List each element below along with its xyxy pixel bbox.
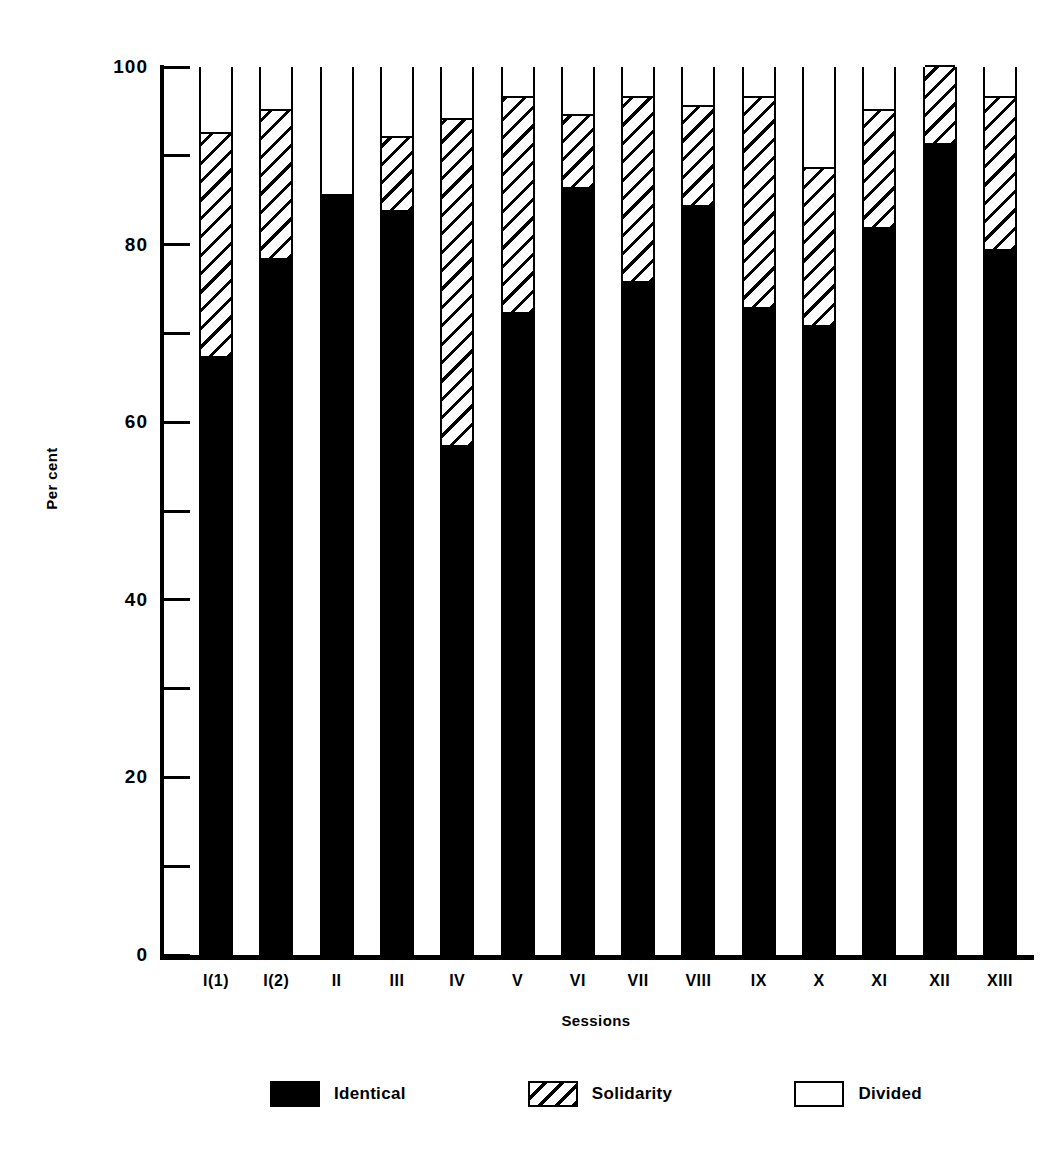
x-axis-tick-label: II — [332, 972, 342, 990]
x-axis-tick-label: III — [390, 972, 405, 990]
segment-identical — [442, 447, 472, 953]
segment-divided — [503, 65, 533, 96]
stacked-bar-chart: Per cent 020406080100 I(1)I(2)IIIIIIVVVI… — [0, 0, 1046, 1151]
segment-identical — [804, 327, 834, 953]
segment-solidarity — [683, 105, 713, 207]
segment-identical — [322, 194, 352, 953]
legend-item-label: Identical — [334, 1084, 406, 1104]
x-axis-tick-label: XII — [929, 972, 950, 990]
segment-solidarity — [623, 96, 653, 282]
plot-area: 020406080100 I(1)I(2)IIIIIIVVVIVIIVIIIIX… — [160, 67, 1032, 955]
segment-identical — [925, 145, 955, 953]
bar-VI[interactable] — [561, 67, 595, 955]
x-axis-tick-label: VIII — [685, 972, 711, 990]
segment-divided — [382, 65, 412, 136]
bar-VIII[interactable] — [681, 67, 715, 955]
segment-identical — [985, 251, 1015, 953]
segment-divided — [261, 65, 291, 109]
bar-X[interactable] — [802, 67, 836, 955]
segment-solidarity — [563, 114, 593, 189]
y-axis-tick-label: 100 — [113, 56, 148, 78]
bar-XIII[interactable] — [983, 67, 1017, 955]
x-axis-title: Sessions — [160, 1012, 1032, 1029]
segment-divided — [201, 65, 231, 132]
x-axis-tick-label: I(1) — [203, 972, 229, 990]
x-axis-tick-label: XIII — [987, 972, 1013, 990]
bar-V[interactable] — [501, 67, 535, 955]
y-axis-tick-label: 0 — [136, 944, 148, 966]
segment-identical — [563, 189, 593, 953]
legend-item-label: Solidarity — [592, 1084, 672, 1104]
segment-divided — [563, 65, 593, 114]
y-axis-tick-label: 20 — [125, 766, 148, 788]
segment-identical — [623, 283, 653, 953]
segment-solidarity — [925, 65, 955, 145]
segment-identical — [683, 207, 713, 953]
hatched-swatch — [528, 1081, 578, 1107]
segment-solidarity — [442, 118, 472, 447]
x-axis-tick-label: I(2) — [263, 972, 289, 990]
solid-black-swatch — [270, 1081, 320, 1107]
chart-legend: IdenticalSolidarityDivided — [160, 1071, 1032, 1117]
segment-identical — [382, 212, 412, 953]
x-axis-tick-label: VII — [628, 972, 649, 990]
segment-divided — [744, 65, 774, 96]
x-axis-tick-label: IX — [751, 972, 767, 990]
segment-identical — [201, 358, 231, 953]
y-axis-tick-label: 40 — [125, 589, 148, 611]
segment-solidarity — [804, 167, 834, 327]
segment-solidarity — [744, 96, 774, 309]
bar-group — [160, 67, 1032, 955]
empty-swatch — [794, 1081, 844, 1107]
bar-IV[interactable] — [440, 67, 474, 955]
y-axis-tick-label: 80 — [125, 234, 148, 256]
segment-identical — [744, 309, 774, 953]
bar-II[interactable] — [320, 67, 354, 955]
segment-divided — [804, 65, 834, 167]
segment-divided — [442, 65, 472, 118]
bar-IX[interactable] — [742, 67, 776, 955]
bar-XII[interactable] — [923, 67, 957, 955]
segment-solidarity — [201, 132, 231, 358]
legend-item-solidarity[interactable]: Solidarity — [528, 1081, 672, 1107]
x-axis-baseline — [160, 955, 1034, 960]
x-axis-tick-label: XI — [871, 972, 887, 990]
segment-identical — [503, 314, 533, 953]
x-axis-tick-label: V — [512, 972, 523, 990]
legend-item-label: Divided — [858, 1084, 922, 1104]
legend-item-identical[interactable]: Identical — [270, 1081, 406, 1107]
segment-solidarity — [864, 109, 894, 229]
bar-I2[interactable] — [259, 67, 293, 955]
legend-item-divided[interactable]: Divided — [794, 1081, 922, 1107]
bar-VII[interactable] — [621, 67, 655, 955]
bar-I1[interactable] — [199, 67, 233, 955]
segment-divided — [683, 65, 713, 105]
x-axis-tick-label: VI — [570, 972, 586, 990]
y-axis-tick-label: 60 — [125, 411, 148, 433]
segment-identical — [261, 260, 291, 953]
segment-solidarity — [503, 96, 533, 314]
segment-divided — [864, 65, 894, 109]
segment-divided — [623, 65, 653, 96]
bar-III[interactable] — [380, 67, 414, 955]
y-axis-title: Per cent — [43, 409, 60, 549]
segment-solidarity — [382, 136, 412, 211]
bar-XI[interactable] — [862, 67, 896, 955]
segment-divided — [322, 65, 352, 194]
segment-identical — [864, 229, 894, 953]
segment-solidarity — [985, 96, 1015, 251]
x-axis-tick-label: IV — [449, 972, 465, 990]
segment-divided — [985, 65, 1015, 96]
x-axis-tick-label: X — [813, 972, 824, 990]
segment-solidarity — [261, 109, 291, 260]
